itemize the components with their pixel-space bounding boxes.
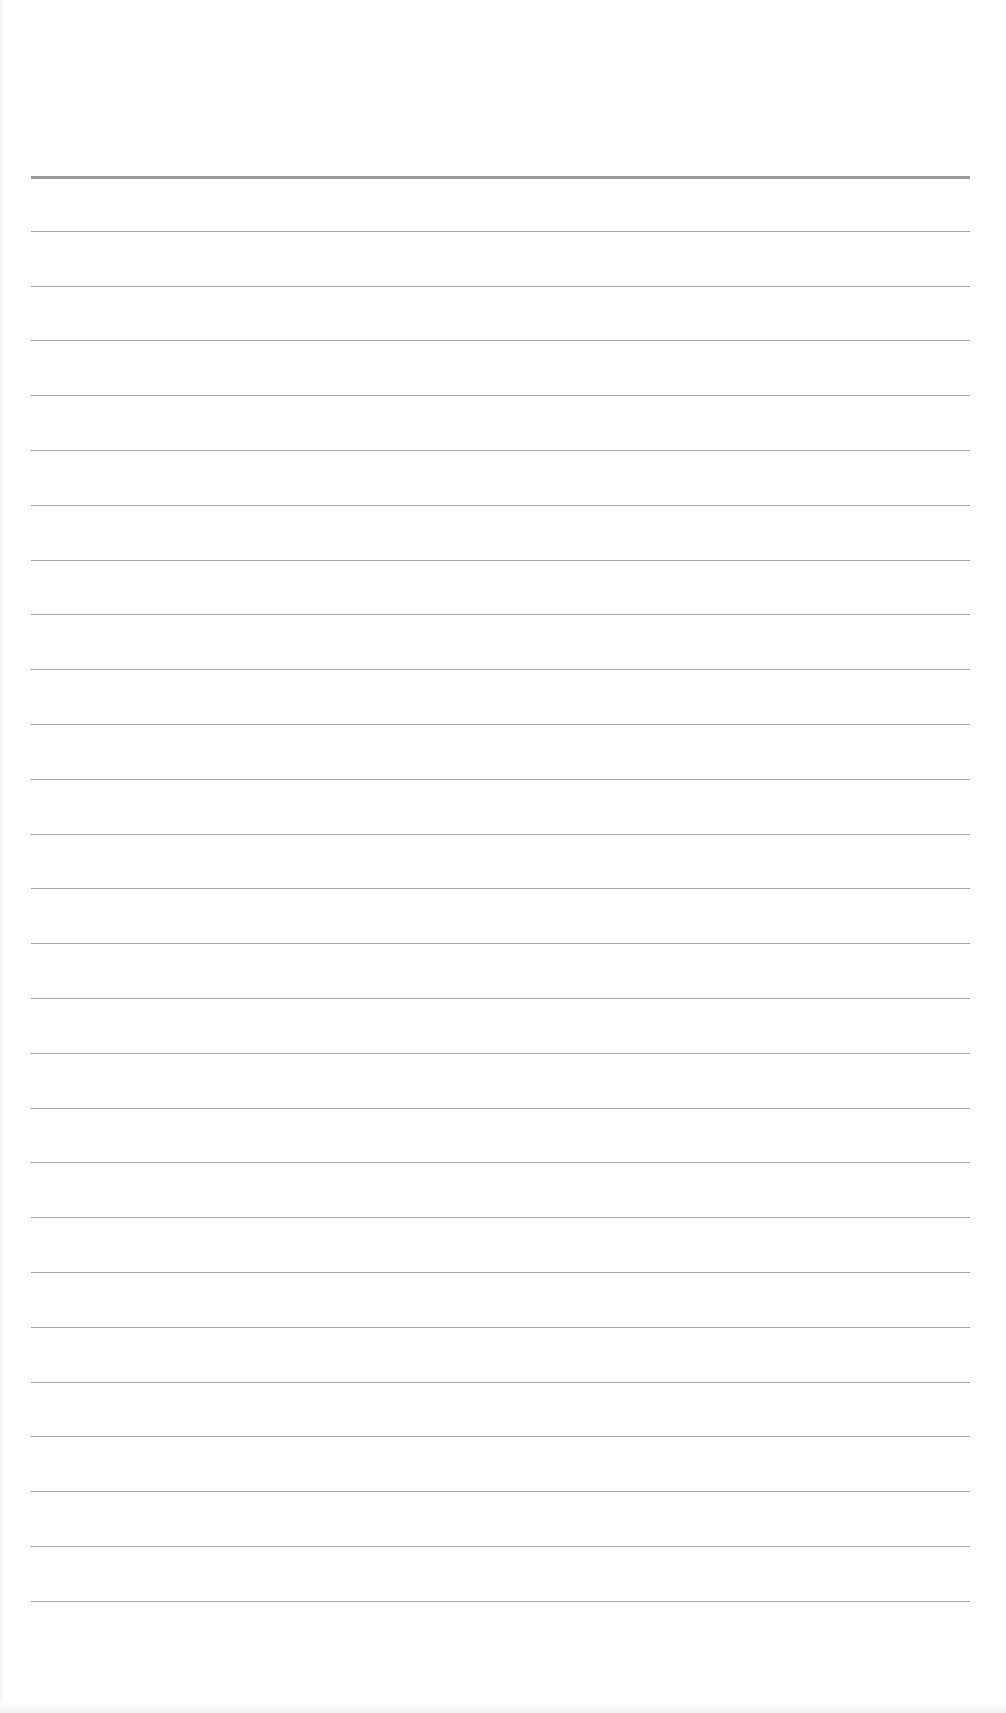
rule-line — [31, 1546, 970, 1547]
rule-line — [31, 614, 970, 615]
rule-line — [31, 286, 970, 287]
rule-line — [31, 669, 970, 670]
rule-line — [31, 450, 970, 451]
rule-line — [31, 1327, 970, 1328]
rule-line — [31, 1436, 970, 1437]
rule-line — [31, 1272, 970, 1273]
rule-line — [31, 1491, 970, 1492]
page-edge-shadow — [0, 0, 4, 1713]
header-rule-line — [31, 176, 970, 179]
rule-line — [31, 724, 970, 725]
ruled-writing-area — [31, 0, 970, 1713]
rule-line — [31, 1053, 970, 1054]
rule-line — [31, 560, 970, 561]
rule-line — [31, 943, 970, 944]
rule-line — [31, 231, 970, 232]
rule-line — [31, 395, 970, 396]
rule-line — [31, 1382, 970, 1383]
rule-line — [31, 1601, 970, 1602]
rule-line — [31, 779, 970, 780]
rule-line — [31, 505, 970, 506]
rule-line — [31, 888, 970, 889]
rule-line — [31, 1108, 970, 1109]
rule-line — [31, 834, 970, 835]
rule-line — [31, 998, 970, 999]
rule-line — [31, 1217, 970, 1218]
rule-line — [31, 1162, 970, 1163]
rule-line — [31, 340, 970, 341]
page-bottom-shadow — [0, 1703, 1006, 1713]
